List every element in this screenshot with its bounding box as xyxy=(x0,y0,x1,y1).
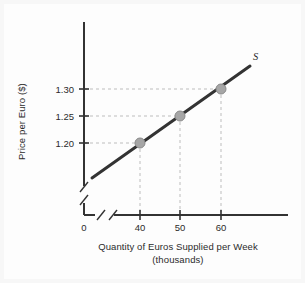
data-point-60-130 xyxy=(216,84,226,94)
x-tick-label-50: 50 xyxy=(165,222,195,233)
y-axis-title: Price per Euro ($) xyxy=(16,57,27,187)
y-tick-label-120: 1.20 xyxy=(40,138,74,149)
x-tick-label-40: 40 xyxy=(125,222,155,233)
data-point-50-125 xyxy=(175,111,185,121)
y-tick-label-125: 1.25 xyxy=(40,111,74,122)
data-point-40-120 xyxy=(135,138,145,148)
x-tick-label-60: 60 xyxy=(206,222,236,233)
x-axis-title-line2: (thousands) xyxy=(78,254,278,267)
series-label-s: S xyxy=(253,51,258,62)
supply-curve-line xyxy=(92,66,250,178)
x-axis-break-mark-left xyxy=(97,210,105,220)
origin-label: 0 xyxy=(69,222,99,233)
supply-curve-figure: S 1.30 1.25 1.20 0 40 50 60 Price per Eu… xyxy=(0,0,305,283)
x-axis-title-line1: Quantity of Euros Supplied per Week xyxy=(78,241,278,254)
guide-lines xyxy=(84,89,221,213)
x-axis-title: Quantity of Euros Supplied per Week (tho… xyxy=(78,241,278,266)
y-tick-label-130: 1.30 xyxy=(40,84,74,95)
